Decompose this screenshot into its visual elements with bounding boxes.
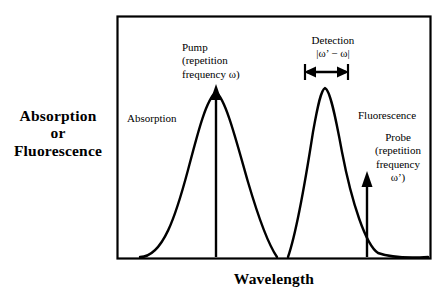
pump-annotation-line-1: Pump	[182, 41, 240, 54]
y-axis-label-line-2: or	[2, 124, 114, 141]
probe-annotation: Probe (repetition frequency ω’)	[366, 131, 430, 185]
pump-annotation-line-3: frequency ω)	[182, 68, 240, 81]
x-axis-label: Wavelength	[117, 270, 431, 288]
y-axis-label: Absorption or Fluorescence	[2, 107, 114, 159]
probe-annotation-line-4: ω’)	[366, 171, 430, 184]
pump-annotation-line-2: (repetition	[182, 54, 240, 67]
absorption-curve-label: Absorption	[127, 112, 177, 125]
probe-annotation-line-1: Probe	[366, 131, 430, 144]
fluorescence-curve-label: Fluorescence	[358, 109, 416, 122]
detection-annotation-formula: |ω’ − ω|	[296, 47, 370, 60]
y-axis-label-line-1: Absorption	[2, 107, 114, 124]
spectroscopy-diagram: Absorption or Fluorescence Wavelength	[0, 0, 443, 303]
detection-annotation-title: Detection	[296, 34, 370, 47]
y-axis-label-line-3: Fluorescence	[2, 142, 114, 159]
detection-annotation: Detection |ω’ − ω|	[296, 34, 370, 61]
probe-annotation-line-3: frequency	[366, 158, 430, 171]
probe-annotation-line-2: (repetition	[366, 144, 430, 157]
pump-annotation: Pump (repetition frequency ω)	[182, 41, 240, 81]
